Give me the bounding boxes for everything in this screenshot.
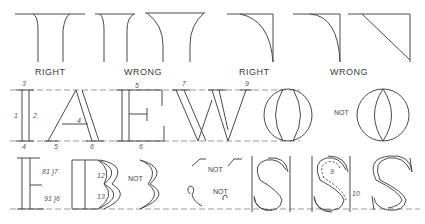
stroke-num: 4 xyxy=(77,117,81,124)
letter-W xyxy=(172,90,252,141)
stroke-num: 5 xyxy=(54,143,58,150)
not-label-O: NOT xyxy=(334,109,349,116)
label-serif-right: RIGHT xyxy=(35,67,66,77)
stroke-num: 3 xyxy=(22,80,26,87)
letter-S-final xyxy=(372,156,412,210)
serif-wrong-drawing xyxy=(95,13,205,62)
letter-B-wrong xyxy=(140,160,159,209)
letter-O-wrong xyxy=(357,89,409,141)
stroke-num: 1 xyxy=(14,112,18,119)
letter-E-construction xyxy=(17,158,44,209)
stroke-num: 91 }6 xyxy=(44,195,60,202)
label-corner-wrong: WRONG xyxy=(330,67,368,77)
not-label-B: NOT xyxy=(128,175,143,182)
serif-right-drawing xyxy=(15,14,85,62)
letter-E xyxy=(116,90,164,141)
stroke-num: 7 xyxy=(182,80,186,87)
stroke-num: 9 xyxy=(245,80,249,87)
letter-B xyxy=(72,160,120,209)
corner-right-drawing xyxy=(227,14,273,62)
stroke-num: 81 }7 xyxy=(42,168,58,175)
letter-S-construction xyxy=(252,156,290,212)
stroke-num: 6 xyxy=(90,143,94,150)
stroke-num: 4 xyxy=(22,143,26,150)
corner-wrong-drawing xyxy=(293,14,410,62)
label-corner-right: RIGHT xyxy=(239,67,270,77)
stroke-num: 2 xyxy=(33,112,37,119)
stroke-num: 12 xyxy=(97,172,105,179)
letter-A xyxy=(44,90,104,141)
stroke-num: 5 xyxy=(135,82,139,89)
not-label-serif: NOT xyxy=(208,166,223,173)
stroke-num: 10 xyxy=(352,190,360,197)
stroke-num: 13 xyxy=(97,193,105,200)
letter-I xyxy=(16,90,34,141)
stroke-num: 9 xyxy=(330,168,334,175)
letter-O-right xyxy=(264,89,312,141)
letter-S-hairline xyxy=(312,156,350,212)
stroke-num: 6 xyxy=(139,143,143,150)
label-serif-wrong: WRONG xyxy=(124,67,162,77)
not-label-ball: NOT xyxy=(213,188,228,195)
